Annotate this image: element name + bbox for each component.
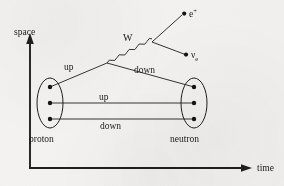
positron-charge-superscript: + xyxy=(193,7,197,14)
neutrino-flavor-subscript: e xyxy=(195,55,198,62)
positron-line xyxy=(152,15,182,42)
proton-label: proton xyxy=(29,134,54,144)
neutron-quark-dot-2 xyxy=(192,101,196,105)
time-axis-label: time xyxy=(257,163,274,173)
space-axis-label: space xyxy=(14,27,35,37)
w-boson-label: W xyxy=(123,32,133,43)
quark-label-up-upper-left: up xyxy=(64,62,74,72)
quark-labels-group: up down up down xyxy=(64,62,155,131)
quark-label-down-upper-right: down xyxy=(134,65,155,75)
neutron-label: neutron xyxy=(170,134,199,144)
positron-label: e+ xyxy=(189,7,197,19)
axes-group: space time xyxy=(14,27,274,173)
neutron-quark-dot-3 xyxy=(192,117,196,121)
proton-group: proton xyxy=(29,78,63,144)
quark-label-down-lower: down xyxy=(100,121,121,131)
feynman-diagram: space time W e+ νe xyxy=(0,0,284,186)
time-axis-arrowhead xyxy=(241,164,252,172)
neutrino-line xyxy=(152,42,184,54)
diagram-canvas: space time W e+ νe xyxy=(0,0,284,186)
quark-label-up-middle: up xyxy=(99,92,109,102)
proton-quark-dot-3 xyxy=(48,117,52,121)
neutron-group: neutron xyxy=(170,78,207,144)
neutron-quark-dot-1 xyxy=(192,85,196,89)
neutrino-label: νe xyxy=(191,50,198,62)
lepton-lines-group: e+ νe xyxy=(152,7,198,61)
w-boson-group: W xyxy=(107,32,152,63)
proton-quark-dot-2 xyxy=(48,101,52,105)
proton-quark-dot-1 xyxy=(48,85,52,89)
neutrino-endpoint-dot xyxy=(184,53,188,57)
positron-endpoint-dot xyxy=(182,12,186,16)
